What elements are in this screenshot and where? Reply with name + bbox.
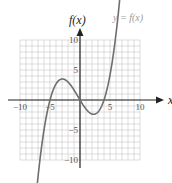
y-tick-label: −10: [64, 155, 79, 165]
y-tick-label: 10: [69, 35, 79, 45]
function-graph: −10−5510105−5−10 x f(x) y = f(x): [0, 0, 172, 183]
x-tick-label: 10: [136, 102, 146, 112]
curve-label: y = f(x): [112, 12, 144, 24]
y-tick-label: −5: [68, 125, 78, 135]
y-tick-label: 5: [74, 65, 79, 75]
y-axis-label: f(x): [69, 13, 86, 27]
function-curve: [36, 0, 121, 183]
x-axis-label: x: [167, 93, 172, 107]
x-tick-label: −10: [13, 102, 28, 112]
x-axis-arrow-icon: [156, 97, 164, 104]
x-tick-label: 5: [108, 102, 113, 112]
